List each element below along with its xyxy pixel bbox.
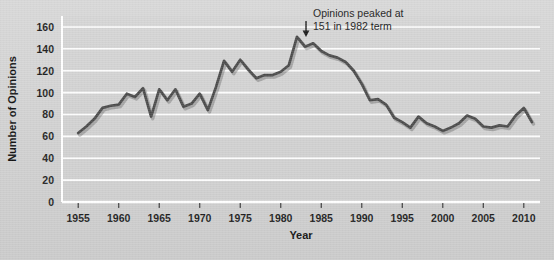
y-tick-label-120: 120 bbox=[36, 65, 54, 77]
x-tick-label-1970: 1970 bbox=[188, 212, 212, 224]
x-tick-label-1980: 1980 bbox=[269, 212, 293, 224]
line-chart-svg: 020406080100120140160 195519601965197019… bbox=[0, 0, 554, 260]
x-tick-label-1960: 1960 bbox=[107, 212, 131, 224]
x-tick-label-1995: 1995 bbox=[391, 212, 415, 224]
x-axis-title: Year bbox=[289, 229, 313, 241]
x-tick-label-2005: 2005 bbox=[472, 212, 496, 224]
x-tick-group bbox=[78, 203, 524, 208]
x-tick-label-1955: 1955 bbox=[67, 212, 91, 224]
chart-figure: 020406080100120140160 195519601965197019… bbox=[0, 0, 554, 260]
y-tick-label-20: 20 bbox=[42, 174, 54, 186]
y-tick-label-0: 0 bbox=[48, 196, 54, 208]
x-tick-label-group: 1955196019651970197519801985199019952000… bbox=[67, 212, 536, 224]
x-tick-label-1985: 1985 bbox=[310, 212, 334, 224]
x-tick-label-1975: 1975 bbox=[229, 212, 253, 224]
y-tick-label-140: 140 bbox=[36, 43, 54, 55]
y-tick-label-group: 020406080100120140160 bbox=[36, 21, 54, 208]
y-axis-title: Number of Opinions bbox=[6, 56, 18, 162]
x-tick-label-1990: 1990 bbox=[350, 212, 374, 224]
peak-annotation-line2: 151 in 1982 term bbox=[313, 20, 392, 32]
x-tick-label-1965: 1965 bbox=[148, 212, 172, 224]
peak-annotation-line1: Opinions peaked at bbox=[313, 7, 404, 19]
y-tick-label-60: 60 bbox=[42, 130, 54, 142]
y-tick-label-160: 160 bbox=[36, 21, 54, 33]
y-tick-label-80: 80 bbox=[42, 108, 54, 120]
y-tick-label-100: 100 bbox=[36, 87, 54, 99]
x-tick-label-2000: 2000 bbox=[431, 212, 455, 224]
y-tick-label-40: 40 bbox=[42, 152, 54, 164]
x-tick-label-2010: 2010 bbox=[512, 212, 536, 224]
